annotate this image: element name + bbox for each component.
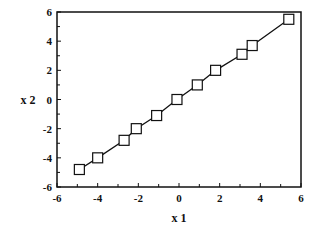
x-tick-label: 6 [298, 192, 304, 204]
y-tick-label: 4 [47, 35, 53, 47]
square-marker-icon [119, 135, 129, 145]
x-tick-label: 4 [258, 192, 264, 204]
x-tick-label: -2 [134, 192, 144, 204]
square-marker-icon [93, 153, 103, 163]
y-tick-label: -6 [43, 181, 53, 193]
y-tick-label: 2 [47, 64, 53, 76]
x-axis-label: x 1 [172, 211, 187, 225]
y-tick-label: -2 [43, 123, 53, 135]
y-tick-label: 0 [47, 94, 53, 106]
square-marker-icon [131, 124, 141, 134]
square-marker-icon [152, 111, 162, 121]
y-tick-label: 6 [47, 6, 53, 18]
square-marker-icon [237, 49, 247, 59]
y-axis-label: x 2 [21, 93, 36, 107]
square-marker-icon [172, 95, 182, 105]
y-tick-label: -4 [43, 152, 53, 164]
square-marker-icon [211, 65, 221, 75]
x-tick-label: -4 [93, 192, 103, 204]
x-tick-labels: -6-4-20246 [52, 192, 304, 204]
square-marker-icon [284, 14, 294, 24]
x-tick-label: 2 [217, 192, 223, 204]
scatter-line-chart: -6-4-20246 -6-4-20246 x 1 x 2 [0, 0, 318, 235]
square-marker-icon [192, 80, 202, 90]
x-tick-label: -6 [52, 192, 62, 204]
y-tick-labels: -6-4-20246 [43, 6, 53, 193]
square-marker-icon [74, 165, 84, 175]
x-tick-label: 0 [176, 192, 182, 204]
square-marker-icon [247, 41, 257, 51]
